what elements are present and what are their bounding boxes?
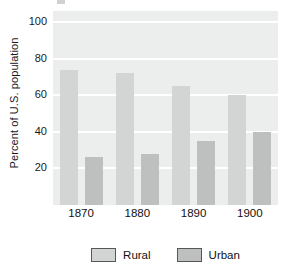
y-tick-label-40: 40 — [35, 126, 47, 137]
x-axis-tick-labels: 1870188018901900 — [53, 207, 278, 225]
bar-rural-1880 — [116, 73, 134, 205]
bars-layer — [53, 11, 278, 205]
chart-legend: RuralUrban — [53, 243, 278, 267]
bar-rural-1900 — [228, 95, 246, 205]
y-tick-label-80: 80 — [35, 53, 47, 64]
x-tick-label-1870: 1870 — [59, 207, 103, 220]
bar-urban-1890 — [197, 141, 215, 205]
bar-rural-1870 — [60, 70, 78, 205]
legend-entry-urban: Urban — [177, 248, 240, 262]
cropped-title-remnant — [57, 0, 65, 4]
bar-rural-1890 — [172, 86, 190, 205]
legend-label-urban: Urban — [209, 249, 240, 261]
x-tick-label-1900: 1900 — [228, 207, 272, 220]
y-tick-label-100: 100 — [29, 16, 47, 27]
y-axis-title-label: Percent of U.S. population — [7, 37, 19, 168]
x-tick-label-1880: 1880 — [115, 207, 159, 220]
legend-entry-rural: Rural — [91, 248, 150, 262]
bar-urban-1900 — [253, 132, 271, 205]
legend-swatch-urban — [177, 248, 202, 262]
y-tick-label-60: 60 — [35, 89, 47, 100]
y-tick-label-20: 20 — [35, 162, 47, 173]
x-tick-label-1890: 1890 — [172, 207, 216, 220]
bar-urban-1870 — [85, 157, 103, 205]
y-axis-title: Percent of U.S. population — [0, 0, 26, 205]
plot-area — [53, 11, 278, 205]
legend-swatch-rural — [91, 248, 116, 262]
bar-chart-figure: Percent of U.S. population 20406080100 1… — [0, 0, 284, 275]
bar-urban-1880 — [141, 154, 159, 205]
legend-label-rural: Rural — [123, 249, 150, 261]
y-axis-tick-labels: 20406080100 — [24, 0, 50, 205]
